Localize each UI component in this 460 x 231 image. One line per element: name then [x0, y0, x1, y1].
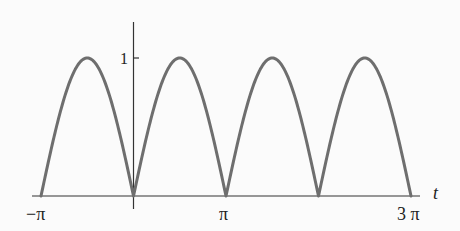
abs-sine-curve — [41, 58, 411, 196]
chart-canvas: 1 −π π 3 π t — [0, 0, 460, 231]
x-tick-label-pi: π — [219, 204, 228, 224]
y-tick-label-one: 1 — [120, 50, 128, 67]
x-tick-label-neg-pi: −π — [26, 204, 45, 224]
x-axis-label-t: t — [433, 183, 439, 203]
x-tick-label-3pi: 3 π — [397, 204, 420, 224]
